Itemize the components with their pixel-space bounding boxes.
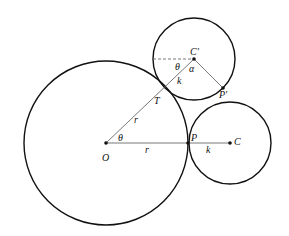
segment-O-Cprime xyxy=(106,59,194,143)
label-P: P xyxy=(190,132,197,143)
point-O xyxy=(104,141,108,145)
label-alpha: α xyxy=(189,63,195,74)
label-r-slant: r xyxy=(134,114,138,125)
label-Cprime: C′ xyxy=(190,46,200,57)
label-k-horizontal: k xyxy=(206,144,211,155)
point-C xyxy=(228,141,232,145)
label-r-horizontal: r xyxy=(145,144,149,155)
point-P xyxy=(186,141,190,145)
label-T: T xyxy=(154,95,161,106)
segment-Cprime-Pprime xyxy=(194,59,223,88)
point-Cprime xyxy=(192,57,196,61)
label-theta-Cprime: θ xyxy=(175,61,180,72)
label-O: O xyxy=(102,152,109,163)
label-Pprime: P′ xyxy=(218,89,228,100)
label-theta-O: θ xyxy=(118,132,123,143)
label-C: C xyxy=(234,136,241,147)
rolling-circle-diagram: O P C C′ P′ T r r k k θ θ α xyxy=(0,0,289,236)
label-k-slant: k xyxy=(177,75,182,86)
